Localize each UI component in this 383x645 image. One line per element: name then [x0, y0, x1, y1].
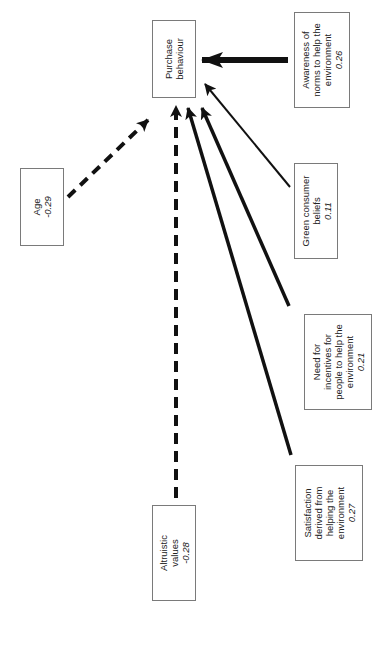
node-label: beliefs	[311, 176, 322, 247]
node-incentives-text: Need for incentives for people to help t…	[311, 324, 366, 400]
node-green-text: Green consumer beliefs 0.11	[300, 176, 333, 247]
arrow-satisfaction	[188, 108, 291, 455]
node-label: environment	[344, 324, 355, 400]
node-label: Awareness of	[300, 23, 311, 96]
node-label: Altruistic	[158, 535, 169, 571]
arrow-age	[68, 120, 148, 197]
node-awareness-text: Awareness of norms to help the environme…	[300, 23, 344, 96]
node-label: behaviour	[174, 38, 185, 80]
arrow-incentives	[202, 108, 289, 306]
node-label: incentives for	[322, 324, 333, 400]
node-label: values	[169, 535, 180, 571]
node-age: Age -0.29	[20, 168, 64, 246]
node-satisfaction: Satisfaction derived from helping the en…	[295, 465, 363, 561]
node-label: Purchase	[163, 38, 174, 80]
node-altruistic-text: Altruistic values -0.28	[158, 535, 191, 571]
node-coefficient: 0.11	[322, 176, 333, 247]
node-label: helping the	[324, 487, 335, 540]
node-altruistic-values: Altruistic values -0.28	[152, 505, 196, 601]
node-coefficient: 0.21	[355, 324, 366, 400]
node-label: Green consumer	[300, 176, 311, 247]
node-awareness: Awareness of norms to help the environme…	[294, 12, 350, 108]
node-coefficient: -0.28	[180, 535, 191, 571]
node-label: Age	[31, 196, 42, 218]
node-label: Need for	[311, 324, 322, 400]
node-label: environment	[335, 487, 346, 540]
node-coefficient: 0.27	[346, 487, 357, 540]
node-purchase-behaviour: Purchase behaviour	[152, 20, 196, 98]
node-age-text: Age -0.29	[31, 196, 53, 218]
node-green-consumer-beliefs: Green consumer beliefs 0.11	[294, 163, 338, 259]
node-need-for-incentives: Need for incentives for people to help t…	[304, 314, 372, 410]
node-purchase-text: Purchase behaviour	[163, 38, 185, 80]
node-label: norms to help the	[311, 23, 322, 96]
node-label: people to help the	[333, 324, 344, 400]
node-label: environment	[322, 23, 333, 96]
arrow-green-consumer	[205, 84, 290, 187]
node-satisfaction-text: Satisfaction derived from helping the en…	[302, 487, 357, 540]
node-coefficient: -0.29	[42, 196, 53, 218]
node-label: Satisfaction	[302, 487, 313, 540]
node-label: derived from	[313, 487, 324, 540]
node-coefficient: 0.26	[333, 23, 344, 96]
